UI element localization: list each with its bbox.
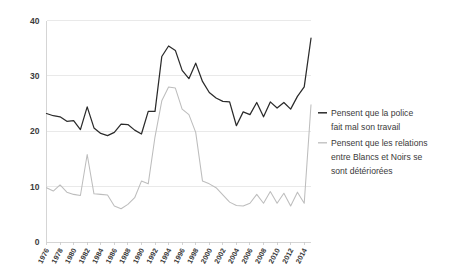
series-line-0 [47, 38, 312, 135]
chart-canvas: 010203040 197619781980198219841986198819… [0, 0, 457, 275]
x-tick-label-2008: 2008 [253, 247, 268, 265]
x-tick-label-1988: 1988 [117, 247, 132, 265]
x-tick-label-2012: 2012 [280, 247, 295, 265]
y-tick-label-30: 30 [30, 71, 40, 81]
legend-label-0-line-0: Pensent que la police [331, 108, 413, 118]
legend-label-1-line-2: sont détériorées [331, 166, 393, 176]
x-tick-label-1996: 1996 [171, 247, 186, 265]
y-tick-label-40: 40 [30, 16, 40, 26]
x-tick-label-1990: 1990 [131, 247, 146, 265]
line-chart: 010203040 197619781980198219841986198819… [0, 0, 457, 275]
y-tick-label-0: 0 [35, 237, 40, 247]
series-group [47, 38, 312, 209]
y-tick-label-10: 10 [30, 182, 40, 192]
x-tick-label-2002: 2002 [212, 247, 227, 265]
x-axis-ticks-group: 1976197819801982198419861988199019921994… [36, 242, 309, 265]
x-tick-label-2000: 2000 [199, 247, 214, 265]
legend-label-1-line-0: Pensent que les relations [331, 138, 428, 148]
legend-label-0-line-1: fait mal son travail [331, 122, 400, 132]
chart-legend: Pensent que la policefait mal son travai… [318, 108, 428, 176]
gridlines-group [47, 21, 312, 243]
x-tick-label-2006: 2006 [239, 247, 254, 265]
x-tick-label-1976: 1976 [36, 247, 51, 265]
x-tick-label-1978: 1978 [49, 247, 64, 265]
x-tick-label-1992: 1992 [144, 247, 159, 265]
x-tick-label-1994: 1994 [158, 247, 173, 265]
x-tick-label-2014: 2014 [294, 247, 309, 265]
x-tick-label-1980: 1980 [63, 247, 78, 265]
x-tick-label-1982: 1982 [77, 247, 92, 265]
x-tick-label-1986: 1986 [104, 247, 119, 265]
series-line-1 [47, 87, 312, 209]
y-tick-label-20: 20 [30, 126, 40, 136]
x-tick-label-2004: 2004 [226, 247, 241, 265]
legend-label-1-line-1: entre Blancs et Noirs se [331, 152, 422, 162]
x-tick-label-1984: 1984 [90, 247, 105, 265]
x-tick-label-2010: 2010 [266, 247, 281, 265]
y-axis-ticks-group: 010203040 [30, 16, 40, 248]
x-tick-label-1998: 1998 [185, 247, 200, 265]
